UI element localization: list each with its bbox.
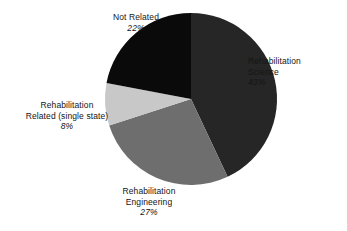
pie-label-rehabilitation-engineering-category-line1: Rehabilitation (94, 186, 204, 197)
pie-label-rehabilitation-science-percent: 43% (248, 77, 344, 88)
pie-label-not-related: Not Related 22% (84, 12, 188, 33)
pie-label-rehabilitation-engineering-category-line2: Engineering (94, 197, 204, 208)
pie-label-rehabilitation-related: Rehabilitation Related (single state) 8% (6, 100, 128, 132)
pie-label-rehabilitation-engineering-percent: 27% (94, 207, 204, 218)
pie-label-rehabilitation-related-percent: 8% (6, 121, 128, 132)
pie-label-rehabilitation-related-category-line1: Rehabilitation (6, 100, 128, 111)
pie-label-not-related-percent: 22% (84, 23, 188, 34)
pie-label-rehabilitation-science-category-line2: Science (248, 67, 344, 78)
pie-label-rehabilitation-related-category-line2: Related (single state) (6, 111, 128, 122)
pie-label-rehabilitation-science-category-line1: Rehabilitation (248, 56, 344, 67)
pie-chart-figure: Not Related 22% Rehabilitation Science 4… (0, 0, 347, 231)
pie-label-rehabilitation-engineering: Rehabilitation Engineering 27% (94, 186, 204, 218)
pie-slices (105, 13, 277, 185)
pie-label-not-related-category: Not Related (84, 12, 188, 23)
pie-label-rehabilitation-science: Rehabilitation Science 43% (248, 56, 344, 88)
